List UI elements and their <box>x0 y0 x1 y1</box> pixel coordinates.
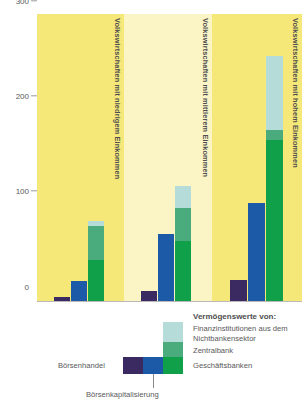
bar-stack-middle <box>175 186 191 301</box>
y-tick-label-0: 0 <box>25 282 29 291</box>
seg-geschaeftsbanken-low <box>88 260 104 301</box>
seg-geschaeftsbanken-high <box>266 140 283 301</box>
seg-geschaeftsbanken-middle <box>175 241 191 301</box>
y-tick-label-300: 300 <box>16 0 29 5</box>
chart-legend: Vermögenswerte von: Finanzinstitutionen … <box>0 306 302 411</box>
legend-swatch-boersenhandel <box>123 357 143 374</box>
legend-label-zentralbank: Zentralbank <box>193 346 233 356</box>
legend-label-nichtbanken-line2: Nichtbankensektor <box>193 334 288 344</box>
bar-boersenhandel-middle <box>141 291 157 302</box>
y-axis: Prozent vom BIP 300 200 100 0 <box>0 0 37 301</box>
panel-low-income: Volkswirtschaften mit niedrigem Einkomme… <box>37 14 124 301</box>
legend-label-boersenkapitalisierung: Börsenkapitalisierung <box>86 390 159 399</box>
legend-swatch-zentralbank <box>163 342 183 357</box>
legend-label-geschaeftsbanken: Geschäftsbanken <box>193 361 252 371</box>
seg-nichtbanken-middle <box>175 186 191 208</box>
bar-stack-low <box>88 221 104 301</box>
bar-stack-high <box>266 56 283 301</box>
bar-boersenhandel-high <box>230 280 247 301</box>
legend-label-nichtbanken: Finanzinstitutionen aus dem Nichtbankens… <box>193 324 288 343</box>
panel-label-high-income: Volkswirtschaften mit hohem Einkommen <box>292 18 299 168</box>
legend-swatch-geschaeftsbanken <box>163 357 183 374</box>
bar-boersenkapitalisierung-middle <box>158 234 174 301</box>
bar-boersenkapitalisierung-low <box>71 281 87 301</box>
panel-high-income: Volkswirtschaften mit hohem Einkommen <box>212 14 302 301</box>
panel-middle-income: Volkswirtschaften mit mittlerem Einkomme… <box>124 14 212 301</box>
chart-container: Prozent vom BIP 300 200 100 0 Volkswirts… <box>0 0 302 411</box>
legend-connector-line <box>153 374 154 388</box>
legend-swatch-boersenkapitalisierung <box>143 357 163 374</box>
legend-title: Vermögenswerte von: <box>193 312 276 321</box>
y-tick-label-100: 100 <box>16 187 29 196</box>
plot-area: Volkswirtschaften mit niedrigem Einkomme… <box>37 14 302 301</box>
seg-zentralbank-high <box>266 130 283 141</box>
seg-zentralbank-middle <box>175 208 191 241</box>
legend-swatch-nichtbanken <box>163 322 183 342</box>
seg-zentralbank-low <box>88 226 104 260</box>
y-tick-mark-300 <box>31 0 37 1</box>
panel-label-low-income: Volkswirtschaften mit niedrigem Einkomme… <box>114 18 121 179</box>
seg-nichtbanken-high <box>266 56 283 130</box>
bar-boersenkapitalisierung-high <box>248 203 265 302</box>
bar-boersenhandel-low <box>54 297 70 301</box>
legend-label-boersenhandel: Börsenhandel <box>58 361 105 370</box>
legend-label-nichtbanken-line1: Finanzinstitutionen aus dem <box>193 324 288 334</box>
panel-label-middle-income: Volkswirtschaften mit mittlerem Einkomme… <box>202 18 209 177</box>
y-tick-label-200: 200 <box>16 91 29 100</box>
